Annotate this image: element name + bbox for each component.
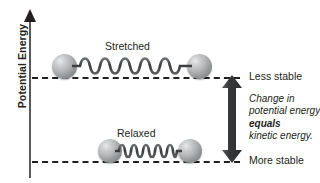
double-headed-vertical-arrow-icon [222, 75, 242, 163]
spring-extended-icon [72, 52, 192, 80]
more-stable-label: More stable [249, 154, 304, 166]
less-stable-label: Less stable [249, 70, 302, 82]
spring-compressed-icon [115, 138, 182, 164]
caption-line-1: Change in [249, 93, 320, 105]
stretched-spring-assembly [52, 52, 212, 80]
caption-line-3: equals [249, 118, 320, 130]
energy-caption: Change in potential energy equals kineti… [249, 93, 320, 143]
caption-line-4: kinetic energy. [249, 130, 320, 142]
y-axis-label: Potential Energy [16, 6, 28, 126]
stretched-label: Stretched [105, 40, 150, 52]
potential-energy-diagram: Potential Energy Stretched Relaxed [0, 0, 320, 183]
caption-line-2: potential energy [249, 105, 320, 117]
y-axis-line [29, 20, 31, 178]
relaxed-spring-assembly [98, 138, 202, 164]
